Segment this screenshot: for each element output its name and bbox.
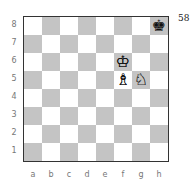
square-e8 (96, 17, 114, 35)
square-b1 (42, 143, 60, 161)
square-d3 (78, 107, 96, 125)
square-g1 (132, 143, 150, 161)
square-f3 (114, 107, 132, 125)
square-a7 (24, 35, 42, 53)
square-h4 (150, 89, 168, 107)
square-c3 (60, 107, 78, 125)
square-a8 (24, 17, 42, 35)
square-a4 (24, 89, 42, 107)
rank-label-5: 5 (10, 74, 18, 83)
square-b2 (42, 125, 60, 143)
square-g4 (132, 89, 150, 107)
white-king-icon: ♔ (116, 53, 130, 71)
square-g8 (132, 17, 150, 35)
square-b3 (42, 107, 60, 125)
square-a5 (24, 71, 42, 89)
square-c7 (60, 35, 78, 53)
square-c8 (60, 17, 78, 35)
square-e6 (96, 53, 114, 71)
rank-label-1: 1 (10, 146, 18, 155)
square-h2 (150, 125, 168, 143)
square-f4 (114, 89, 132, 107)
file-label-c: c (60, 170, 78, 179)
square-e3 (96, 107, 114, 125)
square-h5 (150, 71, 168, 89)
file-label-e: e (96, 170, 114, 179)
square-f5: ♗ (114, 71, 132, 89)
rank-label-8: 8 (10, 20, 18, 29)
square-f8 (114, 17, 132, 35)
square-c5 (60, 71, 78, 89)
square-b4 (42, 89, 60, 107)
square-f1 (114, 143, 132, 161)
file-label-f: f (114, 170, 132, 179)
file-label-g: g (132, 170, 150, 179)
square-d2 (78, 125, 96, 143)
rank-label-3: 3 (10, 110, 18, 119)
square-f7 (114, 35, 132, 53)
square-g6 (132, 53, 150, 71)
square-g7 (132, 35, 150, 53)
square-d8 (78, 17, 96, 35)
file-label-h: h (150, 170, 168, 179)
square-g2 (132, 125, 150, 143)
square-h3 (150, 107, 168, 125)
square-a2 (24, 125, 42, 143)
square-d5 (78, 71, 96, 89)
white-knight-icon: ♘ (134, 71, 148, 89)
square-g3 (132, 107, 150, 125)
file-label-a: a (24, 170, 42, 179)
square-c6 (60, 53, 78, 71)
square-e2 (96, 125, 114, 143)
square-d7 (78, 35, 96, 53)
square-h1 (150, 143, 168, 161)
file-label-b: b (42, 170, 60, 179)
chess-board: ♚♔♗♘ (23, 16, 169, 162)
square-b6 (42, 53, 60, 71)
square-c4 (60, 89, 78, 107)
square-h8: ♚ (150, 17, 168, 35)
square-d6 (78, 53, 96, 71)
square-c1 (60, 143, 78, 161)
square-h6 (150, 53, 168, 71)
rank-label-2: 2 (10, 128, 18, 137)
diagram-number: 58 (178, 13, 189, 23)
square-a6 (24, 53, 42, 71)
rank-label-6: 6 (10, 56, 18, 65)
square-b5 (42, 71, 60, 89)
square-f6: ♔ (114, 53, 132, 71)
square-b8 (42, 17, 60, 35)
square-a3 (24, 107, 42, 125)
square-d4 (78, 89, 96, 107)
square-e1 (96, 143, 114, 161)
square-d1 (78, 143, 96, 161)
square-b7 (42, 35, 60, 53)
white-bishop-icon: ♗ (116, 71, 130, 89)
rank-label-4: 4 (10, 92, 18, 101)
black-king-icon: ♚ (152, 17, 166, 35)
file-label-d: d (78, 170, 96, 179)
square-f2 (114, 125, 132, 143)
square-e7 (96, 35, 114, 53)
square-c2 (60, 125, 78, 143)
rank-label-7: 7 (10, 38, 18, 47)
square-a1 (24, 143, 42, 161)
square-e5 (96, 71, 114, 89)
square-g5: ♘ (132, 71, 150, 89)
square-h7 (150, 35, 168, 53)
square-e4 (96, 89, 114, 107)
